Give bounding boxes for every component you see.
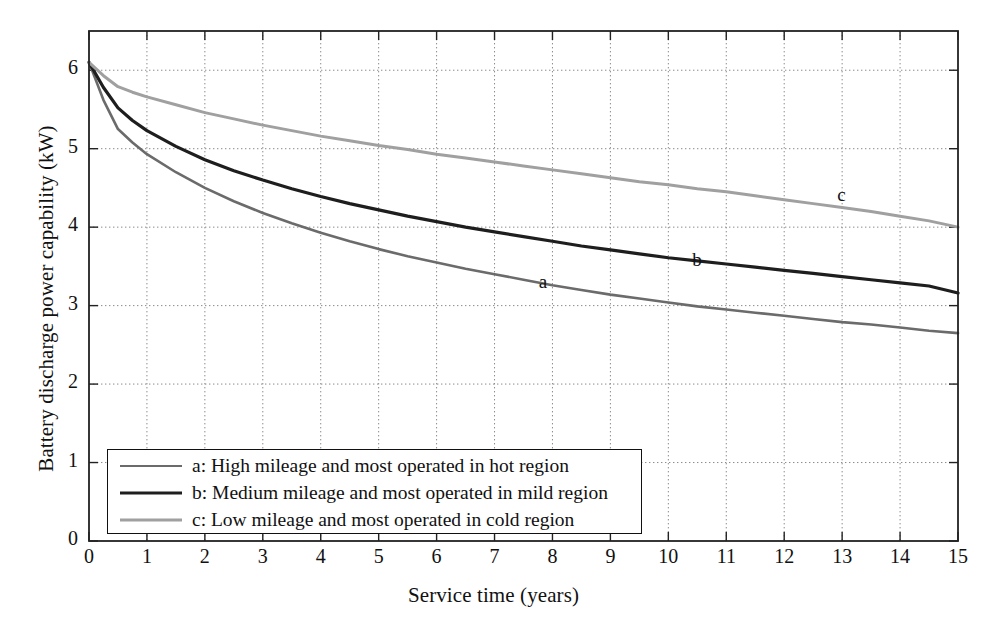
curve-label-c: c — [837, 184, 845, 206]
x-tick-label-3: 3 — [243, 545, 283, 568]
x-tick-label-15: 15 — [938, 545, 978, 568]
legend-swatch-b — [120, 479, 182, 506]
x-tick-label-8: 8 — [532, 545, 572, 568]
x-tick-label-12: 12 — [764, 545, 804, 568]
x-tick-label-1: 1 — [127, 545, 167, 568]
x-tick-label-10: 10 — [648, 545, 688, 568]
x-tick-label-4: 4 — [301, 545, 341, 568]
x-axis-title: Service time (years) — [0, 583, 987, 608]
curve-label-a: a — [539, 271, 547, 293]
legend-label-c: c: Low mileage and most operated in cold… — [192, 510, 574, 530]
legend-item-a: a: High mileage and most operated in hot… — [108, 452, 641, 479]
x-tick-label-13: 13 — [822, 545, 862, 568]
x-tick-label-6: 6 — [417, 545, 457, 568]
data-curves — [89, 62, 958, 333]
legend-item-b: b: Medium mileage and most operated in m… — [108, 479, 641, 506]
x-tick-label-14: 14 — [880, 545, 920, 568]
x-tick-label-7: 7 — [475, 545, 515, 568]
y-axis-title: Battery discharge power capability (kW) — [34, 39, 59, 559]
legend: a: High mileage and most operated in hot… — [107, 449, 642, 534]
x-tick-label-9: 9 — [590, 545, 630, 568]
legend-swatch-a — [120, 452, 182, 479]
x-tick-label-5: 5 — [359, 545, 399, 568]
x-tick-label-11: 11 — [706, 545, 746, 568]
legend-label-b: b: Medium mileage and most operated in m… — [192, 483, 608, 503]
legend-swatch-c — [120, 506, 182, 533]
legend-item-c: c: Low mileage and most operated in cold… — [108, 506, 641, 533]
curve-label-b: b — [692, 249, 702, 271]
chart-figure: 0123456789101112131415 0123456 abc Servi… — [0, 0, 987, 626]
x-tick-label-2: 2 — [185, 545, 225, 568]
legend-label-a: a: High mileage and most operated in hot… — [192, 456, 569, 476]
